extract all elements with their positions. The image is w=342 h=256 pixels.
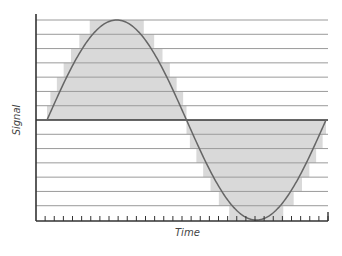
fill-band-upper [50, 91, 183, 105]
fill-band-upper [71, 49, 162, 63]
y-axis-label: Signal [11, 100, 22, 140]
x-axis-label: Time [175, 227, 200, 238]
fill-band-lower [203, 163, 309, 177]
quantized-sine-chart [0, 0, 342, 256]
fill-band-upper [64, 63, 170, 77]
fill-band-lower [190, 134, 323, 148]
fill-band-lower [196, 149, 316, 163]
fill-band-lower [211, 177, 302, 191]
fill-band-upper [47, 106, 187, 120]
fill-band-lower [229, 206, 283, 220]
fill-band-lower [187, 120, 327, 134]
fill-band-upper [90, 20, 144, 34]
fill-band-upper [57, 77, 177, 91]
